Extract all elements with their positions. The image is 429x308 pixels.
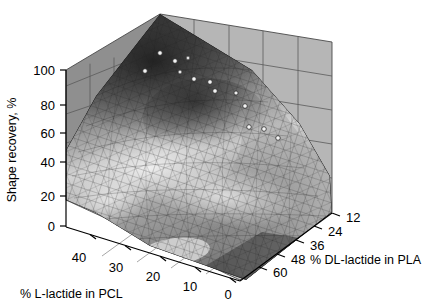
x-tick-label-20: 20 xyxy=(146,269,160,284)
z-tick-label-100: 100 xyxy=(33,63,55,78)
data-point-marker xyxy=(234,91,238,95)
data-point-marker xyxy=(262,127,267,132)
data-point-marker xyxy=(276,136,281,141)
data-point-marker xyxy=(192,77,197,82)
data-point-marker xyxy=(173,59,178,64)
y-tick-label-24: 24 xyxy=(328,224,342,239)
data-point-marker xyxy=(208,80,213,85)
x-tick-label-10: 10 xyxy=(183,279,197,294)
z-tick-label-40: 40 xyxy=(41,155,55,170)
z-tick-label-0: 0 xyxy=(48,219,55,234)
figure-container: 100 80 60 40 20 0 Shape recovery, % 40 3… xyxy=(0,0,429,308)
z-tick-label-60: 60 xyxy=(41,126,55,141)
y-tick-label-48: 48 xyxy=(291,252,305,267)
data-point-marker xyxy=(186,56,190,60)
data-point-marker xyxy=(213,89,218,94)
y-tick-label-12: 12 xyxy=(346,210,360,225)
z-axis: 100 80 60 40 20 0 Shape recovery, % xyxy=(5,63,66,234)
y-tick-label-60: 60 xyxy=(273,265,287,280)
data-point-marker xyxy=(143,69,148,74)
x-axis-label: % L-lactide in PCL xyxy=(20,287,123,301)
data-point-marker xyxy=(178,70,182,74)
x-tick-label-30: 30 xyxy=(109,260,123,275)
x-tick-label-40: 40 xyxy=(72,250,86,265)
z-axis-label: Shape recovery, % xyxy=(5,98,19,203)
data-point-marker xyxy=(158,51,163,56)
y-axis-label: % DL-lactide in PLA xyxy=(310,253,422,267)
data-point-marker xyxy=(247,125,252,130)
z-tick-label-80: 80 xyxy=(41,98,55,113)
y-tick-label-36: 36 xyxy=(310,238,324,253)
z-tick-label-20: 20 xyxy=(41,189,55,204)
x-tick-label-0: 0 xyxy=(224,287,231,302)
surface-plot-svg: 100 80 60 40 20 0 Shape recovery, % 40 3… xyxy=(0,0,429,308)
data-point-marker xyxy=(243,104,248,109)
z-axis-ticks xyxy=(60,70,66,226)
